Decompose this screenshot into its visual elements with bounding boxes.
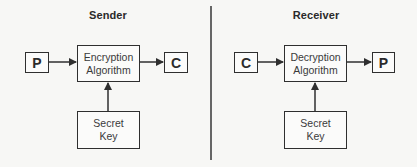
arrows-layer bbox=[0, 0, 417, 167]
